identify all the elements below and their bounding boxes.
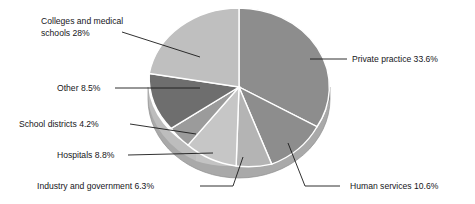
human-services-label: Human services 10.6% [350,181,439,191]
hospitals-label: Hospitals 8.8% [57,150,115,160]
slice-colleges-and-medical-schools[interactable] [149,8,239,87]
private-practice-label: Private practice 33.6% [352,54,438,64]
colleges-label-line1: Colleges and medical [41,16,123,26]
pie-chart-svg: Colleges and medical schools 28% Private… [0,0,475,204]
industry-label: Industry and government 6.3% [37,181,154,191]
pie-chart: Colleges and medical schools 28% Private… [0,0,475,204]
colleges-label-line2: schools 28% [41,28,90,38]
school-districts-label: School districts 4.2% [19,119,99,129]
other-label: Other 8.5% [57,83,101,93]
